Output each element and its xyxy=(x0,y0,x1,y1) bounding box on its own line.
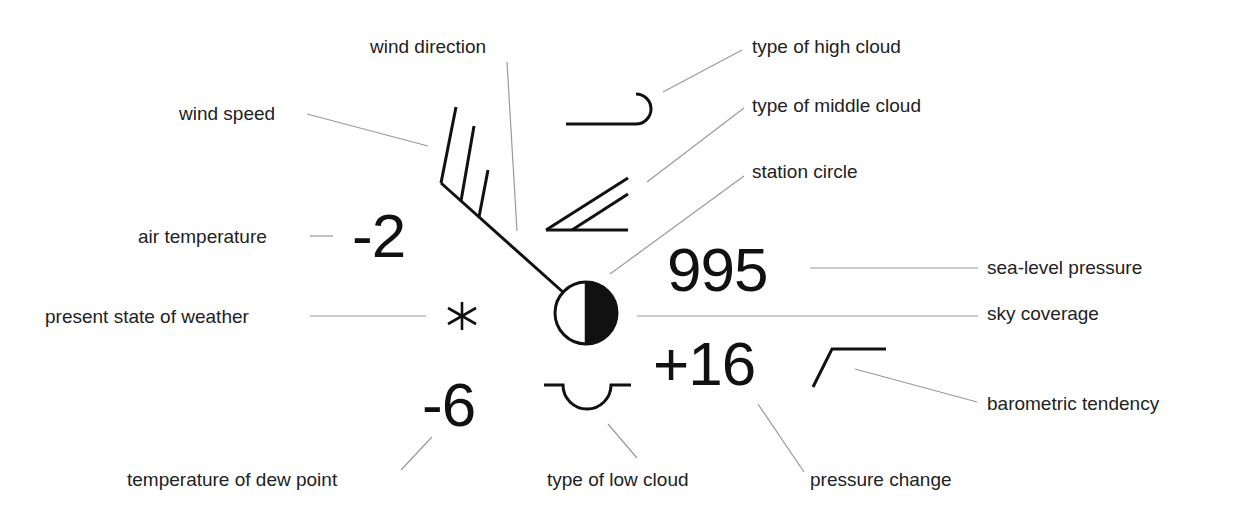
label-present-state-of-weather: present state of weather xyxy=(45,307,249,326)
label-temperature-of-dew-point: temperature of dew point xyxy=(127,470,337,489)
label-wind-speed: wind speed xyxy=(179,104,275,123)
wind-barb-icon xyxy=(441,107,564,293)
label-sky-coverage: sky coverage xyxy=(987,304,1099,323)
wind-barb-2 xyxy=(461,126,474,201)
middle-cloud-icon xyxy=(546,178,628,230)
leader-wind-direction xyxy=(507,62,517,231)
sky-coverage-fill xyxy=(586,282,617,344)
low-cloud-icon xyxy=(544,385,631,409)
leader-barometric-tendency xyxy=(855,369,977,402)
leader-pressure-change xyxy=(758,404,804,472)
wind-barb-1 xyxy=(441,107,456,183)
label-type-of-middle-cloud: type of middle cloud xyxy=(752,96,921,115)
high-cloud-icon xyxy=(566,94,651,124)
wind-barb-3 xyxy=(479,170,488,217)
air-temperature-value: -2 xyxy=(352,205,405,267)
label-pressure-change: pressure change xyxy=(810,470,952,489)
pressure-change-value: +16 xyxy=(653,333,755,395)
leader-dew-point xyxy=(401,437,432,470)
leader-low-cloud xyxy=(608,424,637,458)
wind-shaft xyxy=(441,183,564,293)
barometric-tendency-icon xyxy=(813,349,886,387)
leader-wind-speed xyxy=(307,114,428,146)
label-station-circle: station circle xyxy=(752,162,858,181)
dew-point-value: -6 xyxy=(422,374,475,436)
station-circle-icon xyxy=(555,282,617,344)
snow-asterisk-icon xyxy=(448,302,476,330)
label-wind-direction: wind direction xyxy=(370,37,486,56)
label-barometric-tendency: barometric tendency xyxy=(987,394,1159,413)
label-type-of-low-cloud: type of low cloud xyxy=(547,470,689,489)
leader-middle-cloud xyxy=(647,108,744,182)
leader-high-cloud xyxy=(663,50,742,92)
label-air-temperature: air temperature xyxy=(138,227,267,246)
station-model-diagram: -2 995 +16 -6 wind direction type of hig… xyxy=(0,0,1246,532)
label-sea-level-pressure: sea-level pressure xyxy=(987,258,1142,277)
sea-level-pressure-value: 995 xyxy=(667,239,767,301)
label-type-of-high-cloud: type of high cloud xyxy=(752,37,901,56)
